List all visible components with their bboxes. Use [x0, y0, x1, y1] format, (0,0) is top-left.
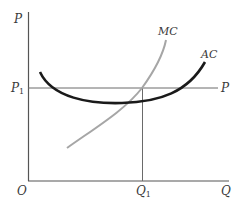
mc-curve-label: MC: [158, 26, 178, 37]
q1-label-main: Q: [136, 184, 146, 198]
q1-label: Q1: [136, 185, 151, 199]
y-axis-label: P: [14, 13, 22, 25]
ac-curve-label: AC: [201, 49, 217, 60]
p1-label: P1: [11, 82, 24, 96]
p1-label-sub: 1: [19, 87, 24, 96]
q1-label-sub: 1: [146, 190, 151, 199]
price-line-label: P: [221, 82, 229, 94]
origin-label: O: [17, 185, 27, 197]
cost-curves-diagram: [0, 0, 245, 209]
p1-label-main: P: [11, 81, 19, 95]
x-axis-label: Q: [221, 185, 231, 197]
ac-curve: [40, 62, 205, 103]
mc-curve: [67, 40, 166, 148]
